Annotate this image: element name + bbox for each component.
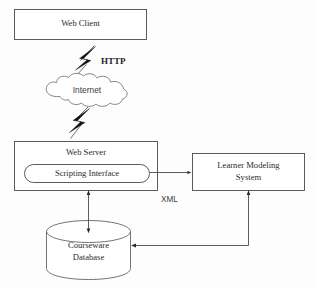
arrowhead-left-icon	[131, 244, 136, 248]
lightning-bolt-icon	[70, 109, 90, 133]
node-web-client[interactable]: Web Client	[15, 10, 147, 40]
connector-client-to-internet	[75, 46, 96, 78]
architecture-diagram-canvas: Web Client HTTP Internet Web Server	[0, 0, 315, 288]
xml-label: XML	[161, 195, 178, 204]
internet-label: Internet	[73, 85, 102, 95]
node-scripting-interface[interactable]: Scripting Interface	[25, 165, 150, 183]
courseware-database-label-line2: Database	[73, 252, 105, 262]
web-client-label: Web Client	[61, 18, 100, 28]
arrowhead-up-icon	[87, 190, 91, 195]
learner-modeling-system-label-line1: Learner Modeling	[217, 160, 280, 170]
lightning-bolt-icon	[76, 47, 96, 71]
learner-modeling-system-label-line2: System	[236, 172, 262, 182]
diagram-root: Web Client HTTP Internet Web Server	[0, 0, 315, 288]
connector-internet-to-server	[70, 107, 90, 139]
learner-database-path	[135, 193, 249, 246]
web-server-label: Web Server	[66, 147, 106, 157]
courseware-database-label-line1: Courseware	[68, 240, 109, 250]
node-learner-modeling-system[interactable]: Learner Modeling System	[193, 154, 305, 191]
http-label: HTTP	[101, 56, 126, 66]
node-internet[interactable]: Internet	[46, 73, 127, 106]
scripting-interface-label: Scripting Interface	[55, 168, 119, 178]
connector-learner-model-to-database	[131, 190, 250, 247]
